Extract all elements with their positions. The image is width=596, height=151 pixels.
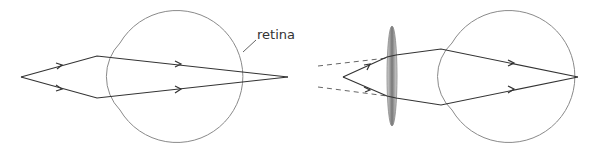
retina-leader-line (243, 40, 256, 52)
left-eye (106, 11, 242, 143)
eye-optics-diagram (0, 0, 596, 151)
arrow-icon (175, 61, 181, 67)
right-rays (343, 49, 578, 105)
right-eye (438, 11, 575, 143)
left-rays (21, 56, 288, 98)
corrective-lens (387, 26, 397, 126)
left-eyeball-outline (106, 11, 242, 143)
retina-label: retina (257, 27, 295, 42)
right-eyeball-outline (438, 11, 575, 143)
dashed-virtual-rays (318, 58, 387, 96)
arrow-icon (508, 86, 514, 93)
